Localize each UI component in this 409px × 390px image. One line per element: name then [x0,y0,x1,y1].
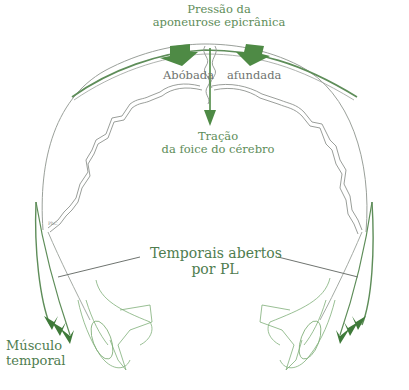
vault-label-left: Abóbada [163,69,214,82]
skull-diagram [0,0,409,390]
muscle-arrows-right-icon [336,316,366,344]
muscle-label-line1: Músculo [6,339,66,354]
traction-label-line2: da foice do cérebro [148,143,288,156]
temporals-label: Temporais abertos por PL [150,245,280,277]
pressure-label: Pressão da aponeurose epicrânica [139,3,299,29]
small-mark-label: PhC [48,221,57,226]
temporals-label-line2: por PL [150,261,280,277]
vault-label-right: afundada [227,69,281,82]
muscle-label-line2: temporal [6,354,66,369]
right-temporal-region [260,202,373,370]
traction-label: Tração da foice do cérebro [148,130,288,156]
suture-right [212,84,362,230]
pressure-label-line2: aponeurose epicrânica [139,16,299,29]
temporals-label-line1: Temporais abertos [150,245,280,261]
muscle-label: Músculo temporal [6,339,66,369]
falx-arrow-icon [204,48,216,126]
